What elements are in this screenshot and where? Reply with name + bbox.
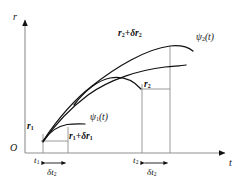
curve-psi2: [43, 46, 193, 141]
point-label-r1-sub: 1: [31, 125, 34, 131]
r1-delta-suffix: +δr: [76, 131, 90, 141]
x-axis-label: t: [229, 158, 232, 168]
curve-actual-path: [43, 65, 186, 142]
r2-delta-sub2: 2: [139, 32, 142, 38]
curve-label-psi1: ψ1(t): [90, 113, 108, 123]
tick-label-t1-sub: 1: [37, 159, 40, 165]
curve-mid-arc: [74, 77, 141, 105]
y-axis-label: r: [13, 12, 17, 22]
tick-label-t2-sub: 2: [136, 159, 139, 165]
interval-label-right-sub: 2: [154, 171, 157, 177]
point-label-r1-plus-delta-r1: r1+δr1: [69, 132, 93, 142]
curve-label-psi2: ψ2(t): [196, 33, 214, 43]
figure-container: r t O t1 t2 δt2 δt2 r1 r1+δr1 r2 r2+δr2 …: [0, 0, 240, 185]
r2-delta-suffix: +δr: [125, 28, 139, 38]
axis-group: [25, 20, 225, 153]
tick-label-t1: t1: [34, 156, 39, 166]
drop-line-group: [43, 46, 170, 153]
interval-label-delta-t2-left: δt2: [47, 168, 57, 178]
point-label-r1: r1: [27, 122, 34, 132]
point-label-r2-sub: 2: [148, 83, 151, 89]
tick-label-t2: t2: [133, 156, 138, 166]
curve-group: [43, 46, 193, 142]
r1-delta-sub2: 1: [90, 135, 93, 141]
point-label-r2: r2: [144, 80, 151, 90]
interval-label-left-base: δt: [47, 167, 54, 177]
interval-label-delta-t2-right: δt2: [147, 168, 157, 178]
interval-label-left-sub: 2: [54, 171, 57, 177]
point-label-r2-plus-delta-r2: r2+δr2: [118, 29, 142, 39]
origin-label: O: [10, 143, 17, 153]
curve-label-psi2-arg: (t): [205, 32, 214, 42]
interval-label-right-base: δt: [147, 167, 154, 177]
curve-label-psi1-arg: (t): [99, 112, 108, 122]
